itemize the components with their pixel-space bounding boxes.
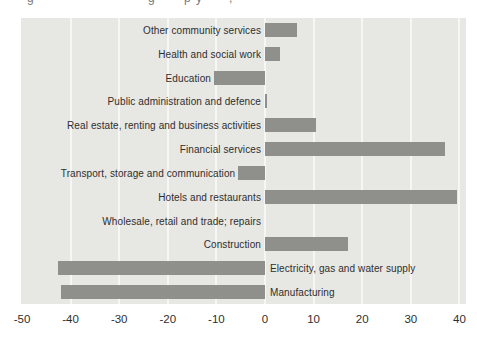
category-label: Financial services <box>180 144 261 155</box>
chart-row: Wholesale, retail and trade; repairs <box>21 209 466 233</box>
bar <box>58 261 265 275</box>
x-tick-label: 40 <box>453 313 466 325</box>
x-tick-label: -10 <box>208 313 225 325</box>
cropped-title-fragment: ggpy, <box>0 0 477 7</box>
bar <box>265 237 348 251</box>
chart-row: Public administration and defence <box>21 90 466 114</box>
bar <box>265 190 457 204</box>
bar <box>265 94 267 108</box>
category-label: Transport, storage and communication <box>61 167 235 178</box>
chart-row: Transport, storage and communication <box>21 161 466 185</box>
chart-row: Hotels and restaurants <box>21 185 466 209</box>
x-tick-label: -30 <box>111 313 128 325</box>
x-tick-label: -40 <box>62 313 79 325</box>
category-label: Other community services <box>143 24 261 35</box>
chart-row: Education <box>21 66 466 90</box>
bar <box>265 118 316 132</box>
plot-area: Other community servicesHealth and socia… <box>21 18 466 304</box>
category-label: Public administration and defence <box>108 96 261 107</box>
bar <box>265 47 280 61</box>
x-tick-label: 30 <box>404 313 417 325</box>
category-label: Health and social work <box>158 48 261 59</box>
category-label: Real estate, renting and business activi… <box>67 120 261 131</box>
chart-row: Electricity, gas and water supply <box>21 256 466 280</box>
cropped-glyph: y <box>196 0 202 5</box>
chart-row: Construction <box>21 233 466 257</box>
chart-row: Manufacturing <box>21 280 466 304</box>
bar-chart: ggpy, Other community servicesHealth and… <box>0 0 477 337</box>
cropped-glyph: g <box>27 0 34 5</box>
x-tick-label: 0 <box>262 313 268 325</box>
chart-row: Other community services <box>21 18 466 42</box>
x-tick-label: 10 <box>307 313 320 325</box>
cropped-glyph: , <box>229 0 232 5</box>
category-label: Manufacturing <box>270 287 335 298</box>
chart-row: Health and social work <box>21 42 466 66</box>
bar <box>265 142 445 156</box>
cropped-glyph: p <box>184 0 191 5</box>
x-tick-label: -20 <box>159 313 176 325</box>
bar <box>214 71 265 85</box>
bar <box>265 23 297 37</box>
chart-row: Financial services <box>21 137 466 161</box>
category-label: Construction <box>204 239 261 250</box>
x-axis: -50-40-30-20-10010203040 <box>0 313 477 329</box>
category-label: Hotels and restaurants <box>158 191 261 202</box>
bar <box>238 166 265 180</box>
category-label: Education <box>166 72 211 83</box>
x-tick-label: 20 <box>356 313 369 325</box>
category-label: Wholesale, retail and trade; repairs <box>102 215 261 226</box>
chart-row: Real estate, renting and business activi… <box>21 113 466 137</box>
category-label: Electricity, gas and water supply <box>270 263 415 274</box>
bar <box>61 285 265 299</box>
cropped-glyph: g <box>148 0 155 5</box>
x-tick-label: -50 <box>14 313 31 325</box>
